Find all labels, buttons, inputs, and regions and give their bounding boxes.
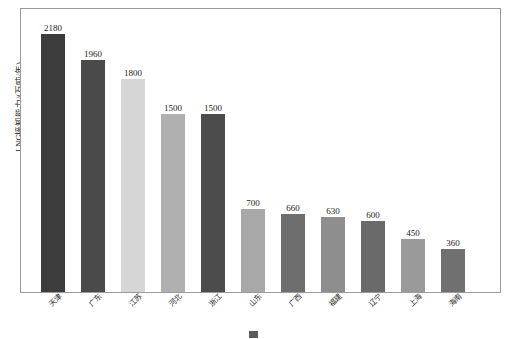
bar-series: 21801960180015001500700660630600450360 bbox=[21, 9, 500, 292]
bar-slot: 660 bbox=[273, 9, 313, 292]
bar[interactable] bbox=[121, 79, 145, 292]
bar-value-label: 700 bbox=[233, 198, 273, 208]
bar-slot: 2180 bbox=[33, 9, 73, 292]
bar-value-label: 360 bbox=[433, 238, 473, 248]
bar-slot: 600 bbox=[353, 9, 393, 292]
plot-area: 21801960180015001500700660630600450360 bbox=[20, 8, 501, 293]
bar-slot: 700 bbox=[233, 9, 273, 292]
bar[interactable] bbox=[361, 221, 385, 292]
caption-swatch-icon bbox=[249, 331, 258, 338]
bar[interactable] bbox=[41, 34, 65, 292]
figure-caption bbox=[0, 329, 509, 339]
bar-slot: 1800 bbox=[113, 9, 153, 292]
bar[interactable] bbox=[441, 249, 465, 292]
bar-value-label: 2180 bbox=[33, 23, 73, 33]
bar[interactable] bbox=[161, 114, 185, 292]
bar-value-label: 450 bbox=[393, 228, 433, 238]
bar-value-label: 630 bbox=[313, 206, 353, 216]
bar-value-label: 1500 bbox=[193, 103, 233, 113]
bar-slot: 360 bbox=[433, 9, 473, 292]
bar-slot: 1500 bbox=[153, 9, 193, 292]
bar[interactable] bbox=[201, 114, 225, 292]
bar-value-label: 1960 bbox=[73, 49, 113, 59]
bar-slot: 630 bbox=[313, 9, 353, 292]
bar-value-label: 660 bbox=[273, 203, 313, 213]
bar[interactable] bbox=[241, 209, 265, 292]
bar[interactable] bbox=[281, 214, 305, 292]
bar-value-label: 1800 bbox=[113, 68, 153, 78]
bar-slot: 1960 bbox=[73, 9, 113, 292]
bar-value-label: 600 bbox=[353, 210, 393, 220]
bar-value-label: 1500 bbox=[153, 103, 193, 113]
x-axis-tick-labels: 天津广东江苏河北浙江山东广西福建辽宁上海海南 bbox=[20, 295, 501, 327]
bar-slot: 1500 bbox=[193, 9, 233, 292]
bar[interactable] bbox=[401, 239, 425, 292]
bar[interactable] bbox=[81, 60, 105, 292]
bar-slot: 450 bbox=[393, 9, 433, 292]
bar[interactable] bbox=[321, 217, 345, 292]
